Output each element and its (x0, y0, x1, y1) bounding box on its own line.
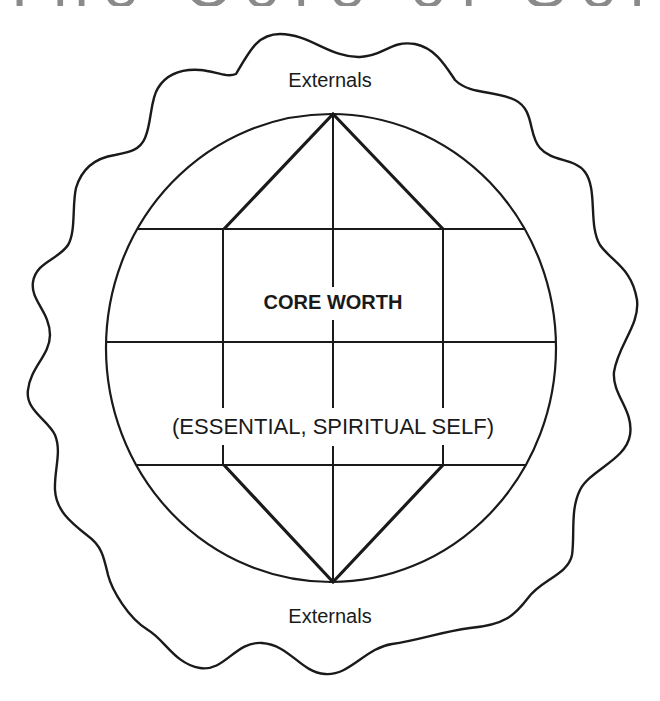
externals-label-top: Externals (0, 69, 660, 92)
core-worth-label: CORE WORTH (0, 291, 660, 314)
externals-label-bottom: Externals (0, 605, 660, 628)
essential-self-label: (ESSENTIAL, SPIRITUAL SELF) (0, 414, 660, 440)
core-worth-diagram (0, 0, 660, 701)
globe-circle (106, 114, 556, 582)
